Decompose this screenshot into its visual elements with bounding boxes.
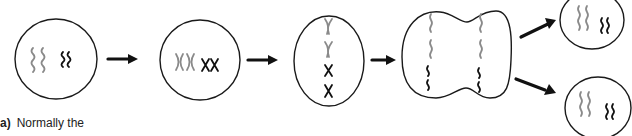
- cell-metaphase: [294, 16, 364, 106]
- cell-prophase: [160, 20, 240, 100]
- daughter-cell-top: [560, 0, 624, 49]
- figure-caption: a)Normally the: [0, 116, 84, 130]
- cell-interphase: [15, 19, 97, 99]
- arrow-icon: [248, 55, 278, 65]
- arrow-icon: [108, 54, 138, 64]
- arrow-icon: [372, 55, 396, 65]
- caption-text: Normally the: [17, 116, 84, 130]
- arrow-icon: [516, 79, 556, 95]
- arrow-icon: [521, 18, 556, 37]
- caption-label: a): [0, 116, 11, 130]
- daughter-cell-bottom: [565, 77, 631, 136]
- mitosis-diagram: [0, 0, 632, 136]
- cell-anaphase: [402, 11, 511, 98]
